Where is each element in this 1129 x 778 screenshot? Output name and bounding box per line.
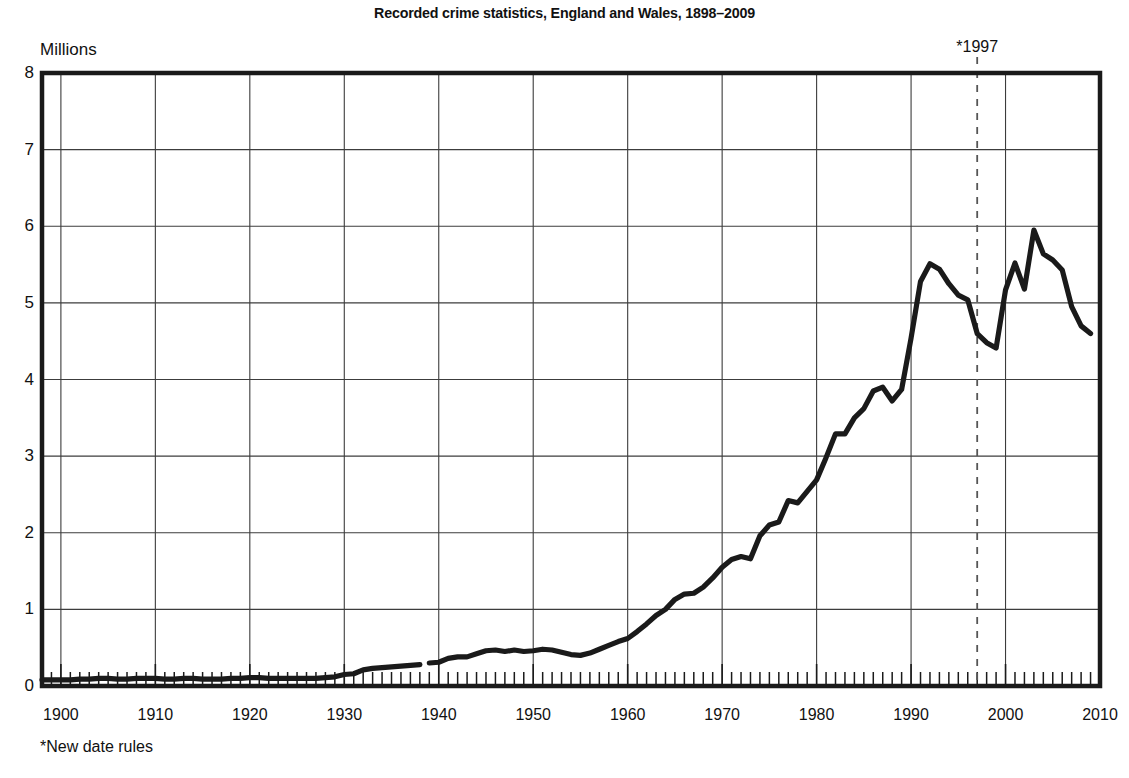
x-tick-label: 1920	[232, 706, 268, 724]
plot-area	[0, 0, 1129, 778]
series-line-2	[429, 230, 1090, 663]
x-tick-label: 1980	[799, 706, 835, 724]
x-tick-label: 2000	[988, 706, 1024, 724]
annotation-label-1: *1997	[956, 38, 998, 56]
y-tick-label: 8	[4, 63, 34, 83]
y-tick-label: 1	[4, 599, 34, 619]
y-tick-label: 6	[4, 216, 34, 236]
chart-footnote: *New date rules	[40, 738, 153, 756]
x-tick-label: 1990	[893, 706, 929, 724]
data-series-lines	[42, 230, 1091, 680]
crime-statistics-chart: Recorded crime statistics, England and W…	[0, 0, 1129, 778]
x-tick-label: 1930	[326, 706, 362, 724]
y-tick-label: 4	[4, 370, 34, 390]
y-tick-label: 2	[4, 523, 34, 543]
gridlines	[42, 73, 1100, 686]
x-tick-label: 1910	[138, 706, 174, 724]
y-tick-label: 5	[4, 293, 34, 313]
x-tick-label: 1950	[515, 706, 551, 724]
x-tick-label: 1900	[43, 706, 79, 724]
y-tick-label: 3	[4, 446, 34, 466]
y-tick-label: 0	[4, 676, 34, 696]
x-tick-label: 1940	[421, 706, 457, 724]
x-tick-label: 2010	[1082, 706, 1118, 724]
x-tick-label: 1960	[610, 706, 646, 724]
y-tick-label: 7	[4, 140, 34, 160]
x-tick-label: 1970	[704, 706, 740, 724]
